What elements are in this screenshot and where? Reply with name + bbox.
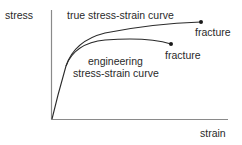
true-fracture-point xyxy=(199,20,203,24)
x-axis-label: strain xyxy=(200,128,226,139)
y-axis-label: stress xyxy=(5,10,33,21)
true-fracture-label: fracture xyxy=(195,27,231,38)
elastic-region-line xyxy=(52,66,66,119)
true-curve-label: true stress-strain curve xyxy=(67,10,174,21)
engineering-curve-label-line2: stress-strain curve xyxy=(73,68,159,79)
engineering-curve-label-line1: engineering xyxy=(88,56,143,67)
engineering-fracture-label: fracture xyxy=(165,50,201,61)
engineering-fracture-point xyxy=(169,42,173,46)
